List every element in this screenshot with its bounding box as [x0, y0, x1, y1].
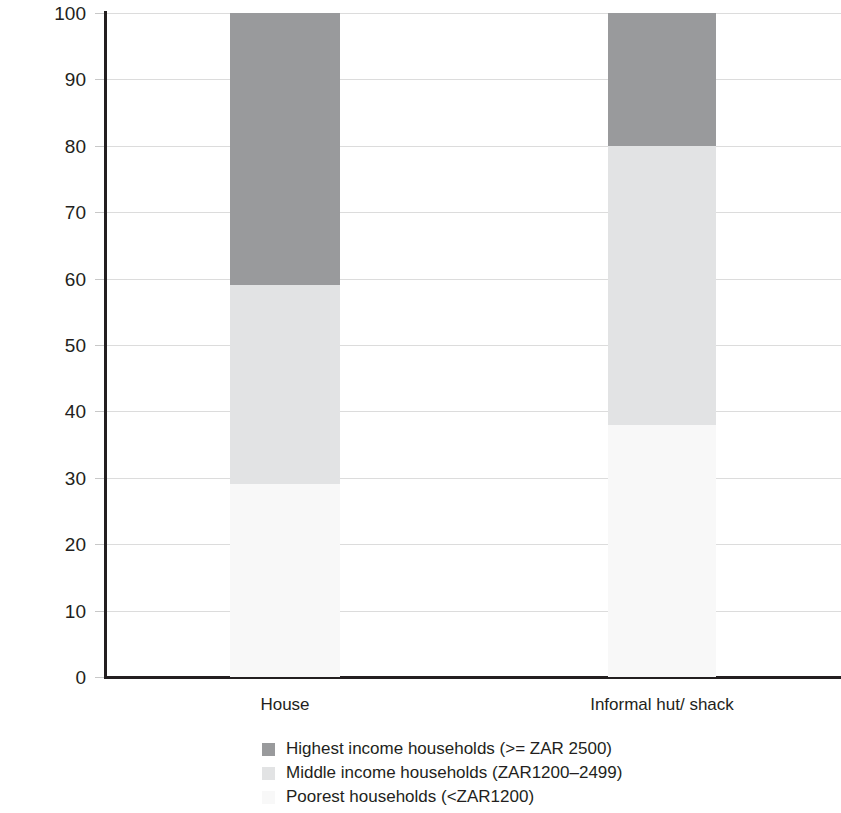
gridline [107, 611, 841, 612]
gridline [107, 544, 841, 545]
y-axis-tick [95, 13, 104, 14]
legend-item: Poorest households (<ZAR1200) [262, 785, 822, 809]
y-axis-tick-label: 90 [30, 70, 86, 89]
legend-label: Poorest households (<ZAR1200) [286, 785, 534, 809]
gridline [107, 146, 841, 147]
bar-segment [608, 13, 716, 146]
y-axis-tick-label: 80 [30, 137, 86, 156]
y-axis-tick-label: 40 [30, 402, 86, 421]
y-axis-tick-label: 70 [30, 203, 86, 222]
y-axis-tick [95, 478, 104, 479]
x-axis-category-label: Informal hut/ shack [552, 694, 772, 716]
y-axis-tick [95, 411, 104, 412]
y-axis-tick [95, 279, 104, 280]
bar-segment [230, 285, 340, 484]
x-axis-category-label: House [175, 694, 395, 716]
y-axis-tick-label: 60 [30, 270, 86, 289]
y-axis-line [104, 11, 107, 679]
legend-swatch-icon [262, 767, 275, 780]
gridline [107, 345, 841, 346]
y-axis-tick-label: 20 [30, 535, 86, 554]
legend-item: Highest income households (>= ZAR 2500) [262, 737, 822, 761]
x-axis-line [104, 676, 841, 679]
legend-label: Middle income households (ZAR1200–2499) [286, 761, 622, 785]
gridline [107, 212, 841, 213]
y-axis-tick [95, 79, 104, 80]
legend-swatch-icon [262, 743, 275, 756]
y-axis-tick-label: 0 [30, 668, 86, 687]
gridline [107, 279, 841, 280]
y-axis-tick [95, 544, 104, 545]
y-axis-tick [95, 212, 104, 213]
bar-segment [230, 484, 340, 677]
gridline [107, 79, 841, 80]
stacked-bar-chart: Percentage of households 100908070605040… [0, 0, 841, 813]
y-axis-tick-label: 50 [30, 336, 86, 355]
gridline [107, 411, 841, 412]
bar-segment [230, 13, 340, 285]
chart-legend: Highest income households (>= ZAR 2500)M… [262, 737, 822, 809]
y-axis-tick [95, 146, 104, 147]
y-axis-tick-label: 10 [30, 602, 86, 621]
y-axis-tick [95, 345, 104, 346]
bar-segment [608, 425, 716, 677]
y-axis-tick-label: 30 [30, 469, 86, 488]
legend-swatch-icon [262, 791, 275, 804]
y-axis-tick-label: 100 [30, 4, 86, 23]
gridline [107, 478, 841, 479]
y-axis-tick [95, 611, 104, 612]
y-axis-tick [95, 677, 104, 678]
legend-label: Highest income households (>= ZAR 2500) [286, 737, 612, 761]
bar-segment [608, 146, 716, 425]
gridline [107, 13, 841, 14]
legend-item: Middle income households (ZAR1200–2499) [262, 761, 822, 785]
